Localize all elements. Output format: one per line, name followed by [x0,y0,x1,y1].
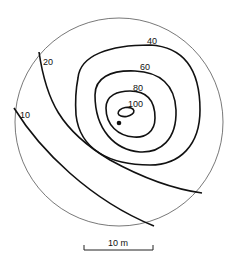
contour-label-80: 80 [133,83,143,93]
scale-bar: 10 m [84,238,153,250]
contour-label-40: 40 [147,36,157,46]
contour-line-80 [106,91,155,137]
scale-bar-label: 10 m [108,238,128,248]
contour-label-10: 10 [20,110,30,120]
point-marker [117,121,122,126]
contour-line-10 [14,108,154,226]
contour-label-100: 100 [128,99,143,109]
contour-label-20: 20 [43,57,53,67]
contour-map: 10 20 40 60 80 100 10 m [0,0,233,269]
contour-label-60: 60 [140,62,150,72]
